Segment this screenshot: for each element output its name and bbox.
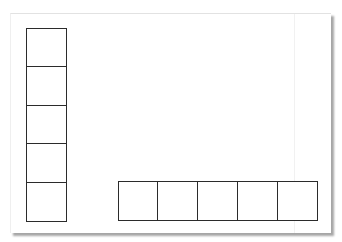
square-cell [26,183,67,222]
square-cell [118,181,158,221]
cropped-caption-fragment: · · · [0,0,342,4]
square-cell [238,181,278,221]
vertical-square-strip [26,28,67,222]
paper-card [10,13,331,233]
square-cell [26,106,67,145]
square-cell [26,67,67,106]
square-cell [158,181,198,221]
square-cell [26,28,67,67]
square-cell [278,181,318,221]
diagram-canvas: · · · [0,0,342,242]
horizontal-square-strip [118,181,318,221]
square-cell [198,181,238,221]
square-cell [26,144,67,183]
